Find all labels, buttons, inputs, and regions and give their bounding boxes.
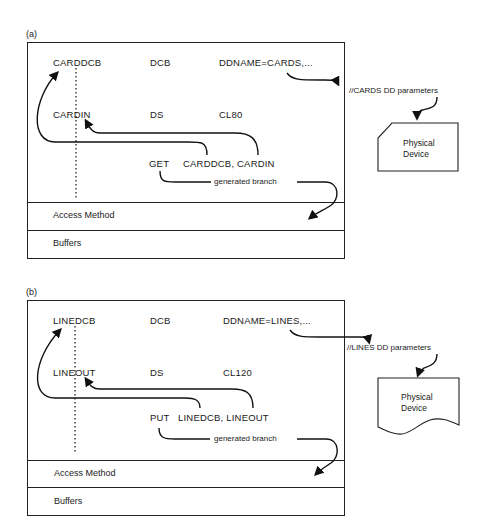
device-label: Physical Device xyxy=(401,392,433,414)
device-label-line1: Physical xyxy=(401,392,433,403)
generated-branch-line-left xyxy=(159,428,210,439)
panel-b-arrows xyxy=(0,0,483,518)
generated-branch-arrow xyxy=(297,439,337,474)
device-label-line2: Device xyxy=(401,403,433,414)
dcb-reference-arrow xyxy=(38,330,200,408)
ddname-arrow xyxy=(290,330,369,342)
dd-to-device-arrow xyxy=(418,354,437,375)
area-reference-arrow xyxy=(86,379,253,408)
